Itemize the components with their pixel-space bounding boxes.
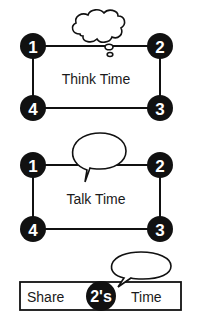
corner-circle-1: 1 — [20, 152, 46, 178]
corner-circle-1: 1 — [20, 33, 46, 59]
twos-badge: 2's — [86, 281, 116, 311]
svg-text:2's: 2's — [90, 288, 112, 305]
svg-text:2: 2 — [155, 38, 164, 57]
think-time-label: Think Time — [62, 71, 131, 87]
talk-time-label: Talk Time — [66, 191, 125, 207]
time-label: Time — [131, 289, 162, 305]
thought-bubble-icon — [73, 10, 125, 57]
corner-circle-3: 3 — [147, 95, 173, 121]
share-time-graphic: Share 2's Time — [0, 250, 198, 328]
svg-text:2: 2 — [155, 157, 164, 176]
share-time-diagram: Share 2's Time — [0, 250, 198, 328]
corner-circle-2: 2 — [147, 33, 173, 59]
think-time-diagram: Think Time 1 2 3 4 — [0, 0, 198, 130]
talk-time-diagram: Talk Time 1 2 3 4 — [0, 130, 198, 250]
svg-text:3: 3 — [155, 100, 164, 119]
corner-circle-3: 3 — [147, 216, 173, 242]
speech-bubble-icon — [73, 133, 126, 182]
share-label: Share — [27, 289, 65, 305]
corner-circle-4: 4 — [20, 216, 46, 242]
svg-text:4: 4 — [28, 221, 38, 240]
talk-time-graphic: Talk Time 1 2 3 4 — [0, 130, 198, 250]
svg-text:1: 1 — [28, 38, 37, 57]
svg-text:1: 1 — [28, 157, 37, 176]
corner-circle-4: 4 — [20, 95, 46, 121]
corner-circle-2: 2 — [147, 152, 173, 178]
svg-text:4: 4 — [28, 100, 38, 119]
think-time-graphic: Think Time 1 2 3 4 — [0, 0, 198, 130]
svg-text:3: 3 — [155, 221, 164, 240]
